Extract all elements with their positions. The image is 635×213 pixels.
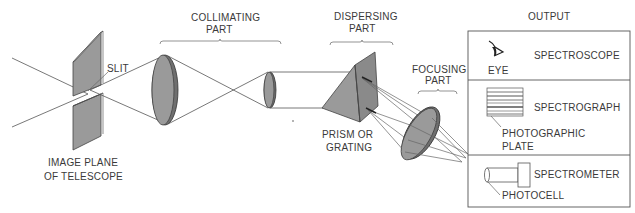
prism-label-line2: GRATING: [326, 142, 372, 153]
prism-label-line1: PRISM OR: [322, 129, 373, 140]
photocell-leader: [488, 182, 500, 195]
output-row-spectrograph: SPECTROGRAPH PHOTOGRAPHIC PLATE: [487, 88, 620, 152]
image-plane-lower-plate: [73, 93, 103, 150]
image-plane-label-line2: OF TELESCOPE: [44, 171, 123, 182]
plate-leader: [491, 116, 501, 127]
photocell-icon: [485, 163, 531, 187]
dispersing-brace: [330, 40, 393, 45]
spectroscope-label: SPECTROSCOPE: [534, 50, 620, 61]
output-row-spectroscope: EYE SPECTROSCOPE: [488, 41, 620, 76]
photographic-plate-icon: [487, 88, 523, 116]
focusing-label-line2: PART: [425, 75, 452, 86]
collimating-lens-small: [264, 72, 276, 108]
collimating-brace: [160, 39, 281, 44]
eye-icon: [489, 41, 503, 56]
photographic-label-line2: PLATE: [502, 141, 534, 152]
focusing-brace: [418, 89, 457, 94]
collimating-label-line1: COLLIMATING: [191, 12, 260, 23]
collimating-label-line2: PART: [206, 24, 233, 35]
slit-label: SLIT: [107, 63, 129, 74]
collimating-lens-large: [152, 55, 178, 125]
spectrometer-diagram: SLIT IMAGE PLANE OF TELESCOPE COLLIMATIN…: [0, 0, 635, 213]
stray-mark: [292, 120, 294, 122]
spectrograph-label: SPECTROGRAPH: [534, 102, 620, 113]
focusing-label-line1: FOCUSING: [412, 64, 466, 75]
eye-label: EYE: [488, 65, 509, 76]
output-label: OUTPUT: [528, 11, 570, 22]
output-row-spectrometer: SPECTROMETER PHOTOCELL: [485, 163, 620, 201]
photographic-label-line1: PHOTOGRAPHIC: [502, 128, 585, 139]
dispersing-label-line1: DISPERSING: [334, 11, 398, 22]
dispersing-label-line2: PART: [349, 23, 376, 34]
spectrometer-label: SPECTROMETER: [534, 169, 620, 180]
image-plane-label-line1: IMAGE PLANE: [48, 157, 118, 168]
photocell-label: PHOTOCELL: [502, 190, 564, 201]
collimating-rays: [168, 56, 268, 124]
